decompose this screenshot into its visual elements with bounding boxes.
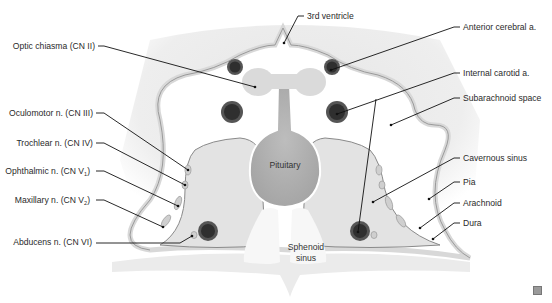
svg-text:Arachnoid: Arachnoid <box>463 198 502 208</box>
internal-carotid-artery-upper-right <box>326 101 348 123</box>
svg-text:3rd ventricle: 3rd ventricle <box>307 11 354 21</box>
svg-text:Optic chiasma (CN II): Optic chiasma (CN II) <box>13 41 95 51</box>
svg-text:Abducens n. (CN VI): Abducens n. (CN VI) <box>13 237 92 247</box>
expand-image-icon[interactable] <box>533 286 542 295</box>
svg-text:Internal carotid a.: Internal carotid a. <box>463 68 529 78</box>
anterior-cerebral-artery-left <box>227 59 243 75</box>
svg-text:Oculomotor n. (CN III): Oculomotor n. (CN III) <box>9 108 93 118</box>
sphenoid-sinus-label-line2: sinus <box>296 253 316 263</box>
internal-carotid-artery-sinus-right <box>350 221 370 241</box>
svg-text:Pia: Pia <box>463 177 476 187</box>
anterior-cerebral-artery-right <box>324 59 340 75</box>
internal-carotid-artery-sinus-left <box>198 221 218 241</box>
cavernous-sinus-diagram: Pituitary Sphenoid sinus Optic chiasma (… <box>0 0 552 303</box>
svg-text:Anterior cerebral a.: Anterior cerebral a. <box>463 22 536 32</box>
svg-text:Trochlear n. (CN IV): Trochlear n. (CN IV) <box>16 138 93 148</box>
svg-text:Maxillary n. (CN V2): Maxillary n. (CN V2) <box>15 195 90 206</box>
svg-text:Ophthalmic n. (CN V1): Ophthalmic n. (CN V1) <box>5 166 90 177</box>
internal-carotid-artery-upper-left <box>221 101 243 123</box>
svg-text:Cavernous sinus: Cavernous sinus <box>463 153 527 163</box>
pituitary-label: Pituitary <box>269 160 301 170</box>
svg-text:Subarachnoid space: Subarachnoid space <box>463 93 542 103</box>
svg-text:Dura: Dura <box>463 218 482 228</box>
sphenoid-sinus-label-line1: Sphenoid <box>288 242 325 252</box>
